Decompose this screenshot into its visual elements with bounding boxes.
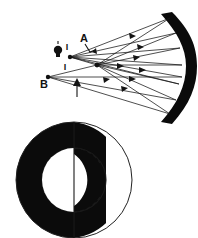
label-a: A xyxy=(80,32,88,44)
ray-a-upper-3 xyxy=(70,48,180,57)
chief-ray xyxy=(70,57,182,77)
arrowhead-icon xyxy=(103,77,110,83)
reflected-ray-6 xyxy=(97,65,176,100)
label-b: B xyxy=(40,78,48,90)
focus-dot xyxy=(95,63,100,68)
arrowhead-icon xyxy=(139,67,146,73)
arrowhead-icon xyxy=(117,63,124,69)
ray-bundle xyxy=(48,18,182,114)
label-i-upper: I xyxy=(66,42,69,52)
reflected-ray-3 xyxy=(97,48,180,65)
focus-to-b xyxy=(48,65,97,77)
label-i-lower: I xyxy=(64,62,67,72)
arrowhead-icon xyxy=(133,55,140,61)
annulus-aperture-pattern xyxy=(16,122,132,238)
arrowhead-icon xyxy=(129,33,136,39)
lamp-icon xyxy=(54,41,62,57)
mirror-ray-diagram: A B I I xyxy=(40,12,197,124)
arrowhead-icon xyxy=(137,44,144,50)
point-a-dot xyxy=(68,55,72,59)
annulus-dark-right xyxy=(74,122,110,238)
upward-reference-arrow xyxy=(73,78,81,97)
optical-diagram-svg: A B I I xyxy=(0,0,198,238)
concave-mirror xyxy=(161,12,197,124)
figure-root: A B I I xyxy=(0,0,198,238)
